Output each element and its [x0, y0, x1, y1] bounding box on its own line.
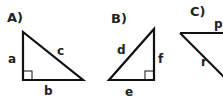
triangle-b-shape [109, 29, 154, 80]
right-angle-marker-b [145, 71, 154, 80]
triangle-c: C) p r [180, 4, 223, 78]
side-d-label: d [117, 43, 126, 57]
side-c-label: c [57, 44, 64, 58]
side-a-label: a [8, 52, 16, 66]
triangle-b-label: B) [111, 11, 127, 26]
side-e-label: e [125, 85, 133, 99]
side-p-label: p [214, 17, 223, 31]
right-angle-marker-a [23, 71, 32, 80]
side-f-label: f [158, 52, 164, 66]
side-r-label: r [201, 55, 207, 69]
triangle-a-label: A) [7, 10, 23, 25]
triangle-a: A) a c b [7, 10, 83, 98]
triangle-b: B) d f e [109, 11, 164, 99]
side-b-label: b [44, 84, 53, 98]
right-triangles-diagram: A) a c b B) d f e C) p r [0, 0, 223, 101]
triangle-c-label: C) [190, 4, 205, 19]
